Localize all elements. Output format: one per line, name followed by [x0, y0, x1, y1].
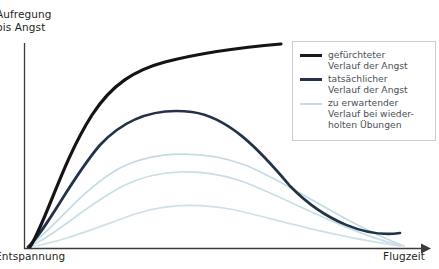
legend-label-feared: gefürchteter Verlauf der Angst [328, 49, 408, 72]
legend-item-expected: zu erwartender Verlauf bei wieder- holte… [300, 97, 429, 131]
feared-anxiety-curve [30, 44, 281, 247]
legend-label-expected: zu erwartender Verlauf bei wieder- holte… [328, 97, 414, 131]
x-axis-origin-label: Entspannung [0, 250, 65, 263]
chart-legend: gefürchteter Verlauf der Angst tatsächli… [292, 41, 436, 141]
legend-swatch-expected-line-icon [300, 103, 322, 105]
legend-swatch-actual-line-icon [300, 78, 322, 81]
legend-swatch-feared-line-icon [300, 54, 322, 57]
legend-item-actual: tatsächlicher Verlauf der Angst [300, 73, 429, 96]
x-axis-label: Flugzeit [383, 250, 425, 263]
legend-item-feared: gefürchteter Verlauf der Angst [300, 49, 429, 72]
chart-figure: Aufregung bis Angst Entspannung Flugzeit… [0, 0, 439, 269]
legend-label-actual: tatsächlicher Verlauf der Angst [328, 73, 408, 96]
y-axis-label: Aufregung bis Angst [0, 8, 52, 34]
